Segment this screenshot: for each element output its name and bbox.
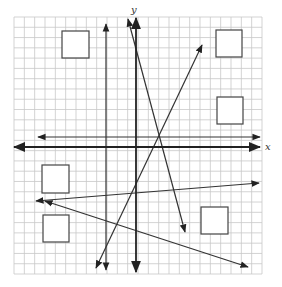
coordinate-graph: x y xyxy=(0,0,282,287)
answer-box-6[interactable] xyxy=(201,207,228,234)
answer-box-2[interactable] xyxy=(216,30,242,57)
x-axis-label: x xyxy=(265,141,271,152)
y-axis-label: y xyxy=(130,4,137,15)
answer-box-3[interactable] xyxy=(217,97,243,124)
answer-box-4[interactable] xyxy=(42,165,69,193)
answer-box-5[interactable] xyxy=(43,215,69,242)
answer-box-1[interactable] xyxy=(62,31,89,58)
